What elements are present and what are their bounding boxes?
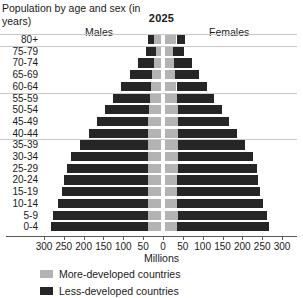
year-label: 2025	[0, 12, 303, 24]
bar-female-less-developed	[177, 82, 208, 91]
bar-female-more-developed	[165, 117, 178, 126]
pyramid-row: 0-4	[0, 221, 303, 233]
pyramid-row: 80+	[0, 34, 303, 46]
bar-male-more-developed	[154, 58, 162, 67]
x-axis-units-label: Millions	[0, 252, 303, 264]
chart-legend: More-developed countriesLess-developed c…	[40, 267, 300, 298]
year-label-text: 2025	[149, 12, 174, 24]
bar-male-more-developed	[148, 222, 161, 231]
x-axis-tick	[262, 236, 263, 240]
age-group-label: 15-19	[0, 186, 38, 198]
bar-male-less-developed	[67, 164, 148, 173]
x-axis-tick	[84, 236, 85, 240]
legend-item: More-developed countries	[40, 267, 300, 281]
bar-male-less-developed	[80, 140, 148, 149]
bar-male-less-developed	[97, 117, 148, 126]
pyramid-row: 5-9	[0, 210, 303, 222]
bar-female-less-developed	[178, 105, 222, 114]
bar-male-more-developed	[148, 199, 161, 208]
bar-male-less-developed	[62, 187, 148, 196]
pyramid-row: 40-44	[0, 128, 303, 140]
pyramid-row: 35-39	[0, 139, 303, 151]
bar-female-less-developed	[175, 70, 199, 79]
bar-female-less-developed	[174, 58, 192, 67]
age-group-label: 55-59	[0, 93, 38, 105]
age-group-label: 80+	[0, 34, 38, 46]
bar-female-more-developed	[165, 175, 178, 184]
bar-male-more-developed	[148, 187, 161, 196]
age-group-label: 45-49	[0, 116, 38, 128]
x-axis-tick	[223, 236, 224, 240]
bar-male-less-developed	[130, 70, 152, 79]
x-axis-line	[6, 236, 297, 237]
x-axis-tick	[123, 236, 124, 240]
bar-female-more-developed	[165, 58, 175, 67]
bar-male-more-developed	[156, 47, 162, 56]
bar-female-less-developed	[178, 117, 229, 126]
pyramid-row: 55-59	[0, 93, 303, 105]
bar-female-less-developed	[178, 140, 245, 149]
bar-female-more-developed	[165, 199, 178, 208]
bar-male-more-developed	[148, 152, 162, 161]
bar-male-less-developed	[71, 152, 147, 161]
bar-male-less-developed	[146, 47, 156, 56]
pyramid-row: 65-69	[0, 69, 303, 81]
age-group-label: 5-9	[0, 210, 38, 222]
bar-female-more-developed	[165, 211, 178, 220]
pyramid-row: 75-79	[0, 46, 303, 58]
bar-male-less-developed	[89, 129, 149, 138]
age-group-label: 60-64	[0, 81, 38, 93]
bar-male-less-developed	[51, 222, 148, 231]
bar-female-less-developed	[178, 129, 237, 138]
x-axis-tick	[143, 236, 144, 240]
bar-female-more-developed	[165, 140, 178, 149]
bar-male-more-developed	[152, 70, 161, 79]
x-axis-units-text: Millions	[144, 252, 179, 264]
bar-male-more-developed	[148, 211, 162, 220]
bar-female-less-developed	[177, 187, 260, 196]
pyramid-row: 30-34	[0, 151, 303, 163]
bar-male-less-developed	[138, 58, 154, 67]
bar-female-more-developed	[165, 152, 178, 161]
bar-male-less-developed	[113, 94, 149, 103]
age-group-label: 0-4	[0, 221, 38, 233]
bar-male-less-developed	[64, 175, 148, 184]
bar-female-less-developed	[173, 47, 185, 56]
age-group-label: 70-74	[0, 57, 38, 69]
bar-female-less-developed	[178, 152, 253, 161]
pyramid-row: 50-54	[0, 104, 303, 116]
bar-female-more-developed	[165, 164, 178, 173]
age-group-label: 25-29	[0, 163, 38, 175]
bar-female-more-developed	[165, 82, 177, 91]
bar-male-more-developed	[148, 175, 161, 184]
x-axis-tick	[64, 236, 65, 240]
bar-male-less-developed	[148, 35, 154, 44]
bar-female-more-developed	[165, 35, 177, 44]
bar-male-more-developed	[154, 35, 161, 44]
bar-female-more-developed	[165, 105, 178, 114]
legend-item-label: Less-developed countries	[59, 284, 179, 298]
age-group-label: 75-79	[0, 46, 38, 58]
x-axis-tick	[203, 236, 204, 240]
bar-female-less-developed	[177, 175, 258, 184]
bar-female-more-developed	[165, 187, 177, 196]
bar-male-more-developed	[148, 140, 161, 149]
pyramid-row: 70-74	[0, 57, 303, 69]
bar-male-more-developed	[150, 94, 162, 103]
age-group-label: 35-39	[0, 139, 38, 151]
bar-male-less-developed	[105, 105, 149, 114]
bar-female-less-developed	[177, 35, 186, 44]
x-axis-tick	[44, 236, 45, 240]
pyramid-row: 25-29	[0, 163, 303, 175]
x-axis-tick	[163, 236, 164, 240]
pyramid-row: 10-14	[0, 198, 303, 210]
bar-female-less-developed	[178, 211, 267, 220]
legend-item: Less-developed countries	[40, 284, 300, 298]
bar-male-less-developed	[121, 82, 150, 91]
pyramid-row: 15-19	[0, 186, 303, 198]
age-group-label: 40-44	[0, 128, 38, 140]
bar-female-more-developed	[165, 222, 178, 231]
bar-male-more-developed	[149, 105, 161, 114]
bar-male-less-developed	[58, 199, 148, 208]
bar-female-less-developed	[177, 199, 263, 208]
